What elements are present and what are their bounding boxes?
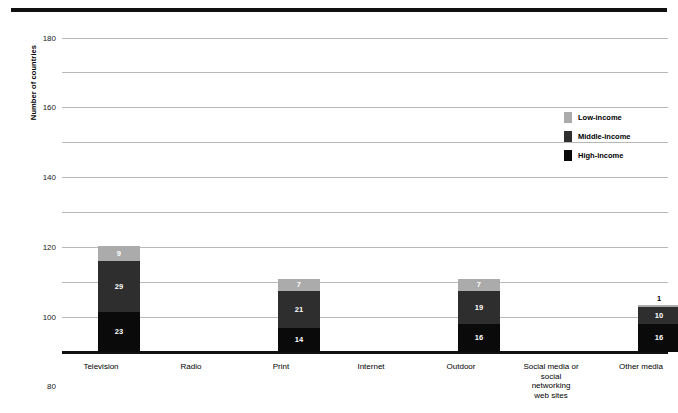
bar-segment-low: 9: [98, 246, 140, 262]
bar-segment-high: 23: [98, 312, 140, 352]
y-tick-label-120: 120: [43, 242, 56, 251]
x-category-label: Radio: [142, 362, 240, 372]
bar-value-label: 9: [117, 250, 121, 258]
bar-column: 92923: [80, 38, 122, 352]
x-category-label: Television: [52, 362, 150, 372]
x-category-label: Outdoor: [412, 362, 510, 372]
bar-column: 72114: [170, 38, 212, 352]
legend-label: High-income: [578, 151, 623, 160]
bar-column: 71916: [260, 38, 302, 352]
x-category-label: Internet: [322, 362, 420, 372]
y-tick-label-80: 80: [47, 382, 56, 391]
x-category-label: Social media orsocialnetworkingweb sites: [502, 362, 600, 400]
y-tick-label-160: 160: [43, 103, 56, 112]
y-tick-label-140: 140: [43, 173, 56, 182]
y-tick-label-100: 100: [43, 312, 56, 321]
bar-column: 791: [620, 38, 662, 352]
bar-column: 10161: [350, 38, 392, 352]
bar-column: 1683: [440, 38, 482, 352]
bar-column: 12131: [530, 38, 572, 352]
bar-group-television[interactable]: 92923: [98, 246, 140, 352]
bar-segment-mid: 29: [98, 261, 140, 312]
x-category-label: Other media: [592, 362, 678, 372]
stacked-bar-chart: Number of countries 02040608010012014016…: [0, 0, 678, 413]
y-axis-title: Number of countries: [29, 23, 38, 143]
bar-value-label: 29: [115, 283, 124, 291]
x-category-label: Print: [232, 362, 330, 372]
y-tick-label-180: 180: [43, 33, 56, 42]
legend-label: Low-income: [578, 113, 622, 122]
bar-value-label: 23: [115, 328, 124, 336]
